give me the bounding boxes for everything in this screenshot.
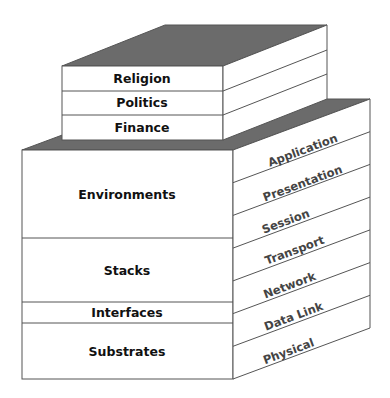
layered-stack-diagram: Environments Stacks Interfaces Substrate…: [0, 0, 390, 398]
diagram-canvas: Environments Stacks Interfaces Substrate…: [0, 0, 390, 398]
layer-label-environments: Environments: [78, 187, 175, 202]
layer-label-stacks: Stacks: [104, 263, 151, 278]
lower-block: Environments Stacks Interfaces Substrate…: [22, 99, 370, 379]
layer-label-religion: Religion: [113, 71, 170, 86]
layer-label-finance: Finance: [115, 120, 170, 135]
layer-label-politics: Politics: [116, 95, 167, 110]
layer-label-interfaces: Interfaces: [91, 305, 162, 320]
layer-label-substrates: Substrates: [89, 344, 166, 359]
